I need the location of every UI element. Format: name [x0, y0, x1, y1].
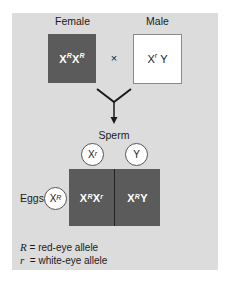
allele: XR	[59, 53, 72, 65]
cross-symbol: ×	[108, 52, 120, 64]
egg-gamete-xR: XR	[44, 187, 67, 210]
male-genotype-box: Xr Y	[133, 34, 182, 84]
offspring-cell-male: XRY	[115, 169, 160, 226]
allele: Y	[160, 53, 167, 65]
sperm-label: Sperm	[90, 129, 138, 141]
allele: XR	[72, 53, 85, 65]
merge-arrow-icon	[90, 86, 140, 128]
sperm-gamete-y: Y	[125, 143, 148, 166]
allele: Xr	[147, 53, 157, 65]
sperm-gamete-xr: Xr	[81, 143, 104, 166]
eggs-label: Eggs	[20, 192, 44, 204]
legend: R = red-eye allele r = white-eye allele	[20, 241, 107, 267]
legend-item-r: r = white-eye allele	[20, 254, 107, 267]
male-label: Male	[133, 15, 182, 27]
female-genotype-box: XRXR	[48, 34, 96, 83]
female-label: Female	[48, 15, 97, 27]
offspring-cell-female: XRXr	[69, 169, 115, 226]
legend-item-R: R = red-eye allele	[20, 241, 107, 254]
